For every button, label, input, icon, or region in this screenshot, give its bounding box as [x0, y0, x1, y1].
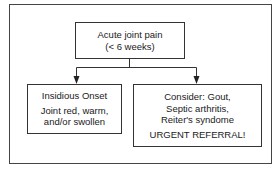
node-consider-line1: Consider: Gout,	[134, 91, 261, 103]
arrow-down-icon	[194, 76, 200, 84]
node-consider-line3: Reiter's syndome	[134, 114, 261, 126]
node-insidious-onset-line1: Joint red, warm,	[28, 105, 121, 117]
arrowheads	[74, 76, 200, 84]
node-consider-line2: Septic arthritis,	[134, 103, 261, 115]
node-consider-diagnoses: Consider: Gout, Septic arthritis, Reiter…	[133, 84, 262, 147]
urgent-referral-label: URGENT REFERRAL!	[134, 129, 261, 141]
node-insidious-onset-line2: and/or swollen	[28, 116, 121, 128]
root-node-line1: Acute joint pain	[76, 29, 184, 41]
root-node-line2: (< 6 weeks)	[76, 41, 184, 53]
root-node-acute-joint-pain: Acute joint pain (< 6 weeks)	[75, 22, 185, 59]
node-insidious-onset: Insidious Onset Joint red, warm, and/or …	[27, 84, 122, 134]
node-insidious-onset-title: Insidious Onset	[28, 90, 121, 102]
arrow-down-icon	[74, 76, 80, 84]
